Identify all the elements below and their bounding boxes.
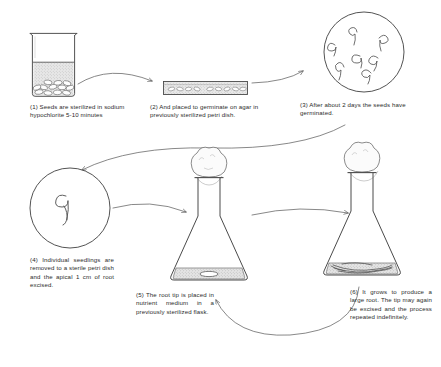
arrow-step2-to-step3 (252, 71, 303, 83)
illustration-petri-dish-single-seedling (30, 168, 110, 248)
arrow-step4-to-step5 (113, 204, 186, 212)
caption-step-1: (1) Seeds are sterilized in sodium hypoc… (30, 103, 146, 120)
illustration-flask-with-large-root (324, 142, 401, 275)
procedure-diagram: (1) Seeds are sterilized in sodium hypoc… (0, 0, 441, 367)
arrow-step1-to-step2 (78, 73, 152, 84)
caption-step-3: (3) After about 2 days the seeds have ge… (300, 101, 418, 118)
caption-step-6: (6) It grows to produce a large root. Th… (350, 288, 432, 322)
caption-step-2: (2) And placed to germinate on agar in p… (150, 103, 262, 120)
illustration-petri-dish-side-view (164, 82, 248, 95)
arrow-step6-to-step5-feedback (216, 287, 359, 335)
caption-step-5: (5) The root tip is placed in nutrient m… (136, 291, 214, 316)
arrow-step5-to-step6 (252, 209, 348, 215)
caption-step-4: (4) Individual seedlings are removed to … (30, 256, 114, 290)
illustration-petri-dish-top-view-germinated (324, 12, 404, 92)
illustration-flask-with-root-tip (171, 147, 248, 280)
illustration-beaker-with-seeds (30, 33, 77, 96)
